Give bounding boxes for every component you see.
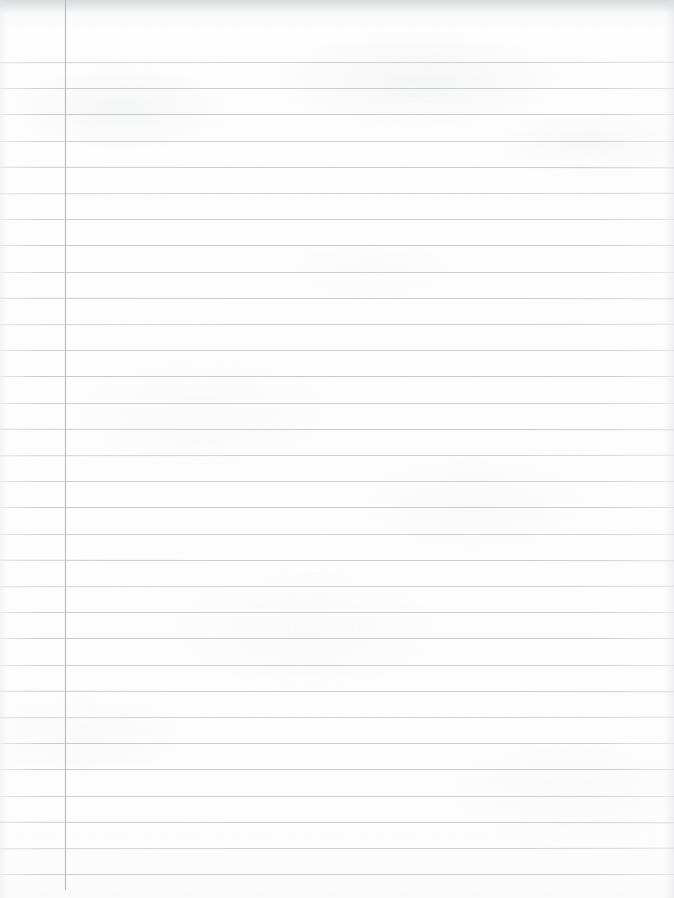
writing-area[interactable]	[66, 62, 674, 878]
header-blank-band[interactable]	[0, 0, 674, 62]
margin-column[interactable]	[0, 0, 65, 890]
notebook-page	[0, 0, 674, 898]
